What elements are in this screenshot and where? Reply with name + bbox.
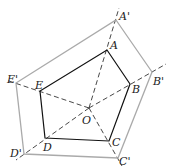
label-c: C [112,136,121,149]
dashed-rays [6,8,166,166]
label-e-prime: E' [6,73,18,86]
label-c-prime: C' [119,155,130,168]
label-b-prime: B' [152,75,164,88]
inner-pentagon [40,50,130,141]
label-b: B [131,83,140,96]
label-e: E [34,79,43,92]
ray-d [16,108,89,160]
homothety-diagram: A B C D E A' B' C' D' E' O [0,0,170,168]
label-d: D [42,141,52,154]
label-a-prime: A' [118,10,130,23]
label-d-prime: D' [9,147,22,160]
label-a: A [109,39,118,52]
label-o: O [82,114,91,127]
